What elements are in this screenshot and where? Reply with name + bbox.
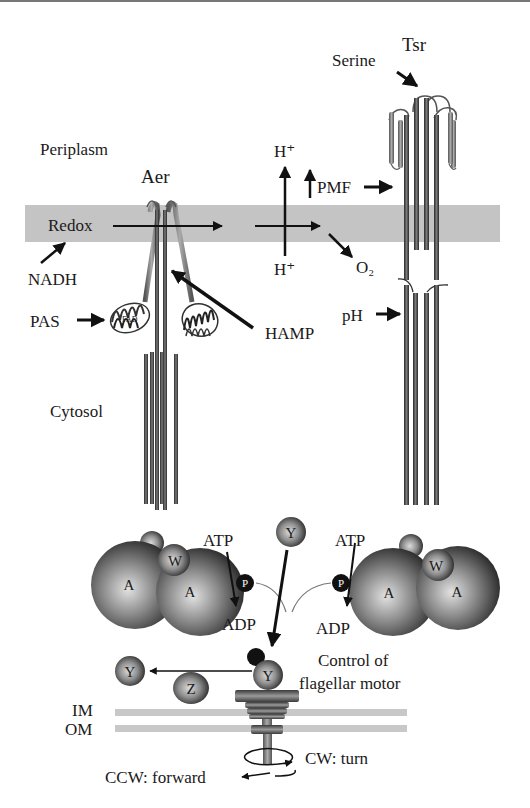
o2-label: O₂ bbox=[356, 258, 374, 277]
aer-label: Aer bbox=[141, 166, 170, 187]
chey-dephosphorylated: Y bbox=[115, 656, 145, 686]
redox-label: Redox bbox=[48, 216, 93, 235]
chemotaxis-diagram: FAD bbox=[0, 0, 530, 808]
motor-control-label-line2: flagellar motor bbox=[299, 674, 401, 693]
adaptor-w-label: W bbox=[168, 553, 183, 569]
chey-free-label: Y bbox=[286, 525, 297, 541]
hamp-label: HAMP bbox=[265, 324, 314, 343]
chey-free: Y bbox=[276, 517, 306, 547]
adaptor-w-right-label: W bbox=[429, 558, 444, 574]
h-plus-bottom-label: H⁺ bbox=[274, 260, 295, 279]
cytosol-label: Cytosol bbox=[50, 402, 103, 421]
ccw-forward-label: CCW: forward bbox=[105, 768, 206, 787]
atp-right-label: ATP bbox=[335, 531, 365, 550]
chey-bound-label: Y bbox=[263, 668, 274, 684]
kinase-complex-left: A A W P ATP ADP bbox=[91, 531, 256, 636]
h-plus-top-label: H⁺ bbox=[274, 142, 295, 161]
nadh-label: NADH bbox=[28, 270, 77, 289]
kinase-a1-right-label: A bbox=[384, 585, 395, 601]
pmf-label: PMF bbox=[317, 178, 351, 197]
chey-p-bound: Y bbox=[247, 648, 283, 690]
atp-left-label: ATP bbox=[203, 531, 233, 550]
chez-label: Z bbox=[186, 681, 195, 697]
fad-label: FAD bbox=[122, 315, 138, 324]
ph-label: pH bbox=[342, 306, 363, 325]
phosphotransfer-curve-right bbox=[292, 583, 331, 612]
hamp-arrow bbox=[172, 271, 253, 328]
periplasm-label: Periplasm bbox=[40, 140, 108, 159]
cw-turn-label: CW: turn bbox=[305, 749, 369, 768]
chey-dephos-label: Y bbox=[125, 664, 136, 680]
chez-phosphatase: Z bbox=[173, 672, 209, 704]
kinase-a2-right-label: A bbox=[452, 584, 463, 600]
kinase-a1-label: A bbox=[124, 577, 135, 593]
motor-control-label-line1: Control of bbox=[318, 651, 389, 670]
aer-receptor: FAD bbox=[106, 201, 222, 510]
adp-right-label: ADP bbox=[316, 619, 350, 638]
pas-domain-left: FAD bbox=[106, 298, 153, 338]
om-label: OM bbox=[65, 720, 92, 739]
adp-left-label: ADP bbox=[222, 615, 256, 634]
kinase-complex-right: A A W P ATP ADP bbox=[316, 531, 500, 638]
tsr-receptor bbox=[389, 96, 456, 505]
phospho-p-label: P bbox=[242, 577, 248, 589]
nadh-arrow bbox=[41, 243, 65, 263]
tsr-label: Tsr bbox=[402, 34, 427, 55]
chey-binding-arrow bbox=[272, 550, 287, 646]
serine-label: Serine bbox=[332, 51, 375, 70]
top-border bbox=[0, 0, 530, 2]
phospho-p-right-label: P bbox=[338, 577, 344, 589]
pas-domain-right bbox=[178, 299, 223, 341]
im-label: IM bbox=[72, 701, 93, 720]
kinase-a2-label: A bbox=[185, 584, 196, 600]
pas-label: PAS bbox=[30, 312, 60, 331]
